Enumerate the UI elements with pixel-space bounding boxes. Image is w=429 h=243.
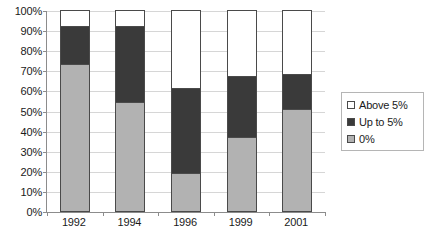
x-tick-label: 1994 bbox=[102, 216, 158, 229]
bar-segment bbox=[115, 102, 145, 212]
legend-item: Up to 5% bbox=[347, 114, 419, 129]
y-tick-label: 70% bbox=[0, 66, 42, 76]
y-tick-label: 20% bbox=[0, 167, 42, 177]
legend-item: 0% bbox=[347, 131, 419, 146]
legend-label: 0% bbox=[359, 133, 375, 145]
y-tick-label: 80% bbox=[0, 46, 42, 56]
bar-segment bbox=[282, 74, 312, 109]
y-tick-label: 0% bbox=[0, 207, 42, 217]
y-tick-label: 30% bbox=[0, 147, 42, 157]
bar-segment bbox=[171, 10, 201, 89]
bar-group bbox=[282, 11, 312, 212]
bar-segment bbox=[227, 10, 257, 77]
bar-group bbox=[115, 11, 145, 212]
bar-stack bbox=[282, 11, 312, 212]
bar-segment bbox=[60, 10, 90, 27]
legend-swatch-icon bbox=[347, 135, 355, 143]
bar-stack bbox=[60, 11, 90, 212]
plot-area bbox=[46, 11, 325, 213]
y-tick-label: 10% bbox=[0, 187, 42, 197]
bar-segment bbox=[171, 173, 201, 212]
legend: Above 5%Up to 5%0% bbox=[341, 92, 424, 151]
bar-group bbox=[171, 11, 201, 212]
x-tick-label: 2001 bbox=[268, 216, 324, 229]
bar-segment bbox=[115, 26, 145, 103]
bar-segment bbox=[282, 10, 312, 75]
bar-segment bbox=[60, 26, 90, 65]
bar-stack bbox=[227, 11, 257, 212]
y-tick-label: 40% bbox=[0, 127, 42, 137]
bar-segment bbox=[115, 10, 145, 27]
bar-stack bbox=[115, 11, 145, 212]
y-tick-label: 90% bbox=[0, 26, 42, 36]
y-tick-label: 50% bbox=[0, 107, 42, 117]
x-axis: 19921994199619992001 bbox=[46, 216, 324, 236]
legend-swatch-icon bbox=[347, 101, 355, 109]
bar-segment bbox=[60, 64, 90, 212]
x-tick-label: 1999 bbox=[213, 216, 269, 229]
stacked-bar-chart: 0%10%20%30%40%50%60%70%80%90%100% 199219… bbox=[0, 0, 429, 243]
bars-layer bbox=[47, 11, 325, 212]
x-tick-label: 1992 bbox=[46, 216, 102, 229]
bar-segment bbox=[227, 76, 257, 137]
legend-label: Above 5% bbox=[359, 99, 408, 111]
legend-swatch-icon bbox=[347, 118, 355, 126]
x-axis-tick bbox=[325, 212, 326, 216]
y-tick-label: 100% bbox=[0, 6, 42, 16]
bar-group bbox=[227, 11, 257, 212]
bar-stack bbox=[171, 11, 201, 212]
bar-segment bbox=[227, 137, 257, 212]
legend-label: Up to 5% bbox=[359, 116, 403, 128]
bar-group bbox=[60, 11, 90, 212]
legend-item: Above 5% bbox=[347, 97, 419, 112]
bar-segment bbox=[282, 109, 312, 213]
y-tick-label: 60% bbox=[0, 86, 42, 96]
x-tick-label: 1996 bbox=[157, 216, 213, 229]
y-axis: 0%10%20%30%40%50%60%70%80%90%100% bbox=[0, 6, 42, 212]
bar-segment bbox=[171, 88, 201, 173]
